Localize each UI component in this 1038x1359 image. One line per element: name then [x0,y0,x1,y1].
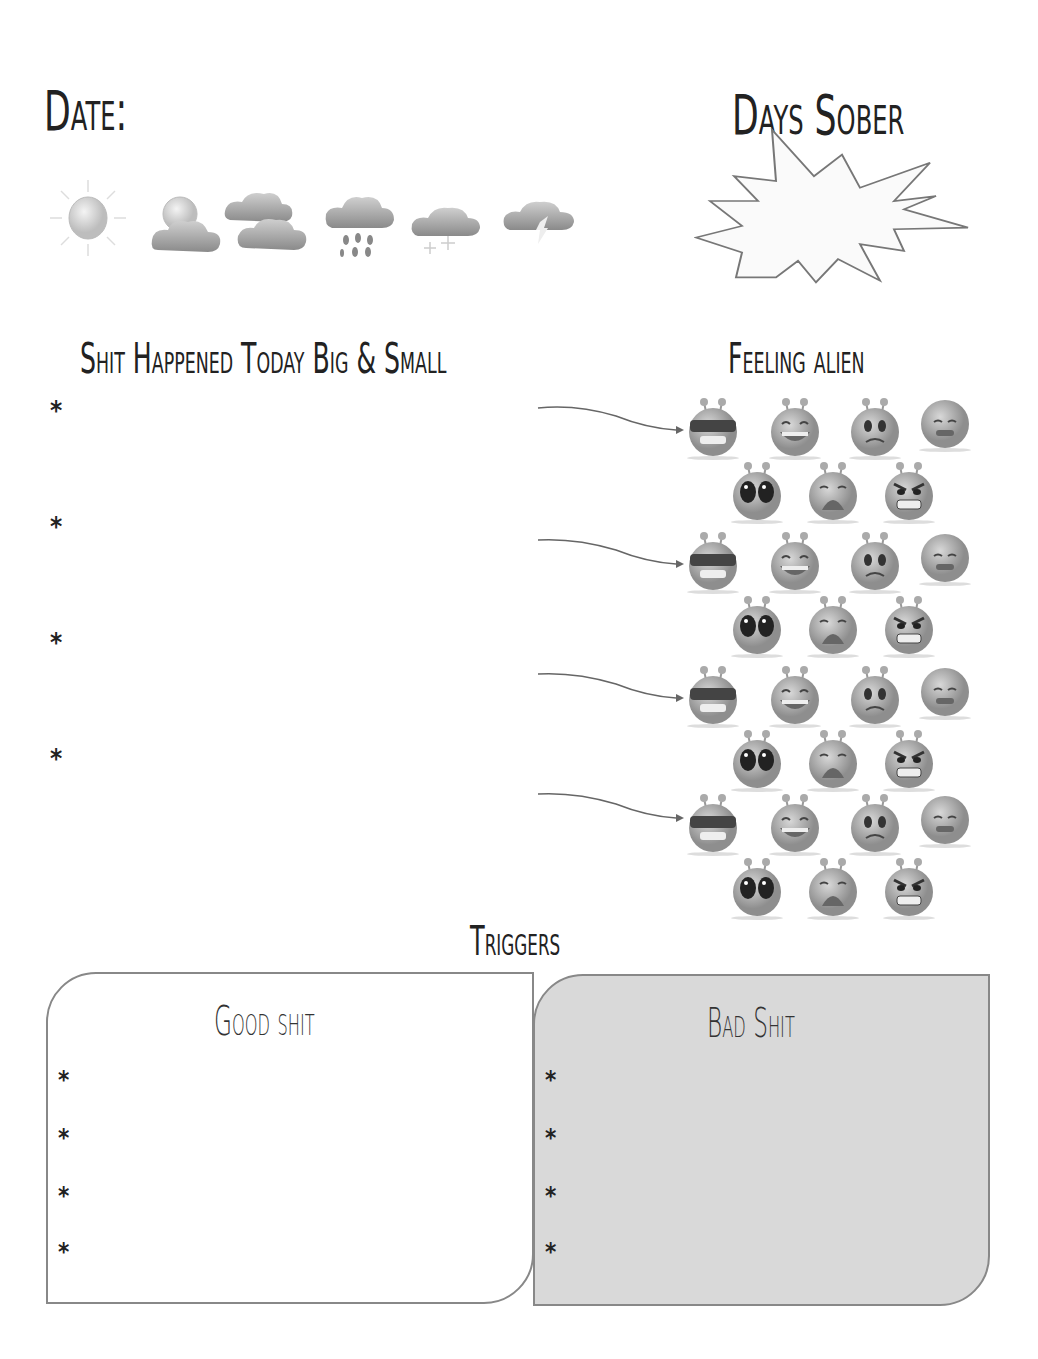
bad-triggers-box[interactable]: Bad Shit * * * * [533,974,990,1306]
alien-cool-sunglasses-icon[interactable] [684,794,742,860]
alien-sad-brain-icon[interactable] [916,390,974,456]
event-bullet-4[interactable]: * [50,744,62,774]
alien-cool-sunglasses-icon[interactable] [684,666,742,732]
event-bullet-1[interactable]: * [50,396,62,426]
alien-sad-brain-icon[interactable] [916,524,974,590]
good-trigger-bullet[interactable]: * [58,1238,69,1266]
alien-shocked-icon[interactable] [728,462,786,528]
alien-shocked-icon[interactable] [728,858,786,924]
alien-angry-icon[interactable] [880,462,938,528]
event-bullet-2[interactable]: * [50,512,62,542]
alien-laughing-icon[interactable] [766,532,824,598]
weather-selector [48,178,588,268]
alien-shocked-icon[interactable] [728,596,786,662]
good-trigger-bullet[interactable]: * [58,1182,69,1210]
alien-sad-brain-icon[interactable] [916,786,974,852]
alien-crying-icon[interactable] [804,858,862,924]
good-triggers-box[interactable]: Good shit * * * * [46,972,534,1304]
alien-angry-icon[interactable] [880,596,938,662]
good-trigger-bullet[interactable]: * [58,1124,69,1152]
bad-trigger-bullet[interactable]: * [545,1124,556,1152]
good-triggers-title: Good shit [214,998,315,1044]
alien-sad-brain-icon[interactable] [916,658,974,724]
alien-laughing-icon[interactable] [766,398,824,464]
mood-alien-group-1 [684,386,984,526]
bad-trigger-bullet[interactable]: * [545,1182,556,1210]
mood-alien-group-4 [684,782,984,922]
partly-cloudy-icon[interactable] [140,178,230,263]
alien-angry-icon[interactable] [880,858,938,924]
rain-icon[interactable] [322,178,397,263]
alien-crying-icon[interactable] [804,462,862,528]
snow-icon[interactable] [408,178,483,263]
bad-trigger-bullet[interactable]: * [545,1238,556,1266]
arrow-icon [536,666,686,706]
sunny-icon[interactable] [48,178,128,258]
date-label: Date: [44,78,127,143]
alien-cool-sunglasses-icon[interactable] [684,532,742,598]
arrow-icon [536,786,686,826]
mood-section-title: Feeling alien [728,334,865,383]
triggers-title: Triggers [470,918,560,964]
good-trigger-bullet[interactable]: * [58,1066,69,1094]
bad-trigger-bullet[interactable]: * [545,1066,556,1094]
alien-laughing-icon[interactable] [766,666,824,732]
arrow-icon [536,532,686,572]
thunderstorm-icon[interactable] [500,178,578,258]
alien-laughing-icon[interactable] [766,794,824,860]
events-section-title: Shit Happened Today Big & Small [80,334,446,383]
mood-alien-group-2 [684,520,984,660]
alien-worried-icon[interactable] [846,532,904,598]
bad-triggers-title: Bad Shit [707,1000,795,1046]
alien-worried-icon[interactable] [846,398,904,464]
event-bullet-3[interactable]: * [50,628,62,658]
alien-crying-icon[interactable] [804,596,862,662]
alien-cool-sunglasses-icon[interactable] [684,398,742,464]
arrow-icon [536,396,686,436]
alien-worried-icon[interactable] [846,666,904,732]
alien-worried-icon[interactable] [846,794,904,860]
mood-alien-group-3 [684,654,984,794]
cloudy-icon[interactable] [220,178,315,258]
days-sober-starburst-field[interactable] [694,128,970,288]
